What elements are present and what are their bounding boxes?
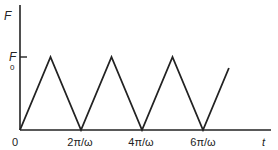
y-tick-label-sub: 0 — [10, 63, 15, 72]
x-tick-label-6pi: 6π/ω — [190, 136, 216, 148]
y-tick-label-f: F — [9, 50, 17, 64]
x-axis-label: t — [262, 136, 266, 148]
x-tick-label-0: 0 — [12, 136, 18, 148]
y-axis-label: F — [4, 9, 12, 23]
triangle-wave-line — [20, 57, 229, 130]
x-tick-label-4pi: 4π/ω — [128, 136, 154, 148]
chart: F F 0 0 2π/ω 4π/ω 6π/ω t — [0, 0, 278, 150]
x-tick-label-2pi: 2π/ω — [67, 136, 93, 148]
